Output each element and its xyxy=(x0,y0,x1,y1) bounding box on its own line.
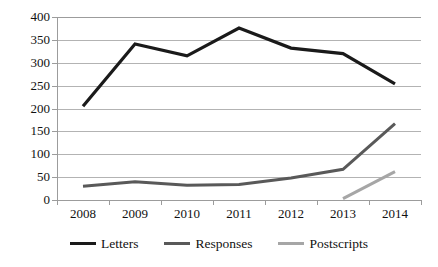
series-line-responses xyxy=(83,124,395,187)
legend-item-postscripts[interactable]: Postscripts xyxy=(278,236,368,251)
line-chart: 050100150200250300350400 200820092010201… xyxy=(0,0,438,267)
y-tick-mark xyxy=(52,131,57,132)
legend-swatch-icon xyxy=(164,242,190,245)
series-line-postscripts xyxy=(343,172,395,199)
y-tick-mark xyxy=(52,86,57,87)
legend-swatch-icon xyxy=(70,242,96,245)
x-tick-mark xyxy=(265,200,266,205)
y-tick-mark xyxy=(52,40,57,41)
x-tick-mark xyxy=(421,200,422,205)
legend-item-letters[interactable]: Letters xyxy=(70,236,138,251)
legend-label: Postscripts xyxy=(309,236,368,251)
x-tick-mark xyxy=(369,200,370,205)
chart-legend: LettersResponsesPostscripts xyxy=(0,236,438,251)
x-tick-mark xyxy=(109,200,110,205)
y-tick-mark xyxy=(52,63,57,64)
data-series-layer xyxy=(0,0,438,267)
x-tick-mark xyxy=(57,200,58,205)
x-tick-mark xyxy=(317,200,318,205)
y-tick-mark xyxy=(52,17,57,18)
y-tick-mark xyxy=(52,154,57,155)
y-tick-mark xyxy=(52,177,57,178)
legend-label: Letters xyxy=(101,236,138,251)
x-tick-mark xyxy=(213,200,214,205)
legend-swatch-icon xyxy=(278,242,304,245)
y-tick-mark xyxy=(52,109,57,110)
legend-label: Responses xyxy=(195,236,252,251)
legend-item-responses[interactable]: Responses xyxy=(164,236,252,251)
x-tick-mark xyxy=(161,200,162,205)
series-line-letters xyxy=(83,28,395,106)
